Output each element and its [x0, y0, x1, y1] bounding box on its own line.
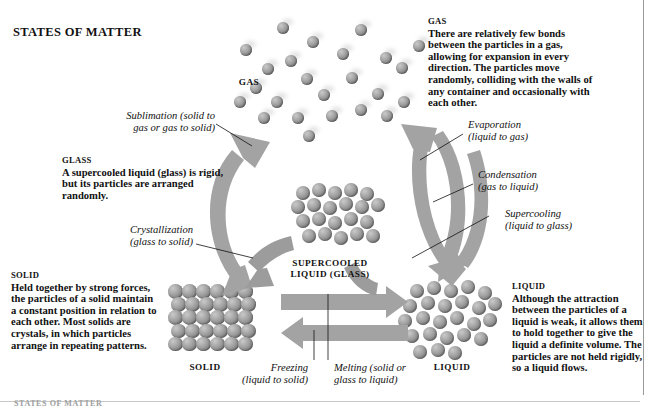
state-label-supercooled-line1: SUPERCOOLED: [276, 258, 384, 268]
description-gas-body: There are relatively few bonds between t…: [428, 28, 600, 109]
label-melting-line2: glass to liquid): [334, 374, 398, 385]
label-crystallization-line2: (glass to solid): [130, 236, 193, 247]
description-glass-body: A supercooled liquid (glass) is rigid, b…: [62, 167, 232, 202]
footer-caption: STATES OF MATTER: [14, 399, 102, 408]
description-liquid-heading: LIQUID: [512, 281, 644, 293]
label-crystallization: Crystallization (glass to solid): [80, 224, 193, 248]
label-sublimation-line2: gas or gas to solid): [133, 122, 215, 133]
arrow-melting: [281, 286, 408, 318]
label-freezing-line1: Freezing: [271, 362, 308, 373]
label-sublimation-line1: Sublimation (solid to: [126, 110, 215, 121]
label-evaporation-line1: Evaporation: [468, 119, 521, 130]
leader-sublimation: [216, 124, 252, 146]
state-label-supercooled-line2: LIQUID (GLASS): [276, 269, 384, 279]
description-solid: SOLID Held together by strong forces, th…: [11, 270, 161, 351]
description-glass: GLASS A supercooled liquid (glass) is ri…: [62, 155, 232, 201]
description-solid-body: Held together by strong forces, the part…: [11, 282, 161, 352]
description-gas: GAS There are relatively few bonds betwe…: [428, 16, 600, 109]
label-condensation-line1: Condensation: [478, 169, 537, 180]
label-melting: Melting (solid or glass to liquid): [334, 362, 452, 386]
arrow-freezing: [281, 317, 408, 349]
description-solid-heading: SOLID: [11, 270, 161, 282]
label-evaporation-line2: (liquid to gas): [468, 131, 528, 142]
description-liquid: LIQUID Although the attraction between t…: [512, 281, 644, 374]
label-condensation-line2: (gas to liquid): [478, 181, 538, 192]
label-sublimation: Sublimation (solid to gas or gas to soli…: [80, 110, 215, 134]
label-supercooling-line1: Supercooling: [505, 208, 561, 219]
label-condensation: Condensation (gas to liquid): [478, 169, 602, 193]
description-glass-heading: GLASS: [62, 155, 232, 167]
label-evaporation: Evaporation (liquid to gas): [468, 119, 588, 143]
label-supercooling: Supercooling (liquid to glass): [505, 208, 629, 232]
state-label-gas: GAS: [229, 77, 269, 87]
label-freezing-line2: (liquid to solid): [242, 374, 308, 385]
diagram-canvas: STATES OF MATTER: [0, 0, 655, 408]
description-liquid-body: Although the attraction between the part…: [512, 293, 644, 374]
label-melting-line1: Melting (solid or: [334, 362, 406, 373]
description-gas-heading: GAS: [428, 16, 600, 28]
label-crystallization-line1: Crystallization: [130, 224, 193, 235]
label-supercooling-line2: (liquid to glass): [505, 220, 572, 231]
label-freezing: Freezing (liquid to solid): [210, 362, 308, 386]
